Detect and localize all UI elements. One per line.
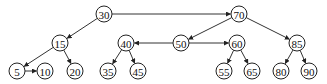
- tree-node-70: 70: [231, 6, 247, 22]
- tree-node-80: 80: [273, 63, 289, 79]
- tree-node-35: 35: [100, 63, 116, 79]
- tree-node-85: 85: [289, 35, 305, 51]
- tree-node-45: 45: [130, 63, 146, 79]
- node-label: 10: [40, 66, 52, 78]
- node-label: 90: [304, 66, 316, 78]
- tree-node-5: 5: [9, 63, 25, 79]
- tree-node-60: 60: [229, 35, 245, 51]
- tree-node-55: 55: [216, 63, 232, 79]
- node-label: 80: [276, 66, 288, 78]
- node-label: 65: [247, 66, 259, 78]
- node-label: 70: [234, 9, 246, 21]
- tree-node-30: 30: [96, 6, 112, 22]
- edge-15-to-20: [64, 50, 71, 63]
- edge-85-to-80: [285, 50, 293, 64]
- node-label: 50: [176, 38, 188, 50]
- node-label: 5: [14, 66, 20, 78]
- node-label: 55: [219, 66, 231, 78]
- tree-node-15: 15: [52, 35, 68, 51]
- node-label: 20: [70, 66, 82, 78]
- edge-30-to-15: [67, 18, 97, 38]
- node-label: 40: [121, 38, 133, 50]
- node-label: 35: [103, 66, 115, 78]
- tree-node-50: 50: [173, 35, 189, 51]
- node-label: 85: [292, 38, 304, 50]
- tree-node-90: 90: [301, 63, 317, 79]
- edge-60-to-55: [228, 50, 234, 63]
- node-label: 45: [133, 66, 145, 78]
- edge-40-to-45: [129, 50, 135, 63]
- tree-node-10: 10: [37, 63, 53, 79]
- tree-node-20: 20: [67, 63, 83, 79]
- edge-70-to-85: [246, 18, 289, 40]
- node-label: 30: [99, 9, 111, 21]
- edge-60-to-65: [241, 50, 248, 63]
- node-label: 15: [55, 38, 67, 50]
- edge-85-to-90: [300, 50, 306, 63]
- tree-node-65: 65: [244, 63, 260, 79]
- tree-node-40: 40: [118, 35, 134, 51]
- node-label: 60: [232, 38, 244, 50]
- edge-70-to-50: [189, 18, 232, 40]
- tree-diagram: 3070154050608551020354555658090: [0, 0, 327, 84]
- edge-40-to-35: [113, 50, 122, 64]
